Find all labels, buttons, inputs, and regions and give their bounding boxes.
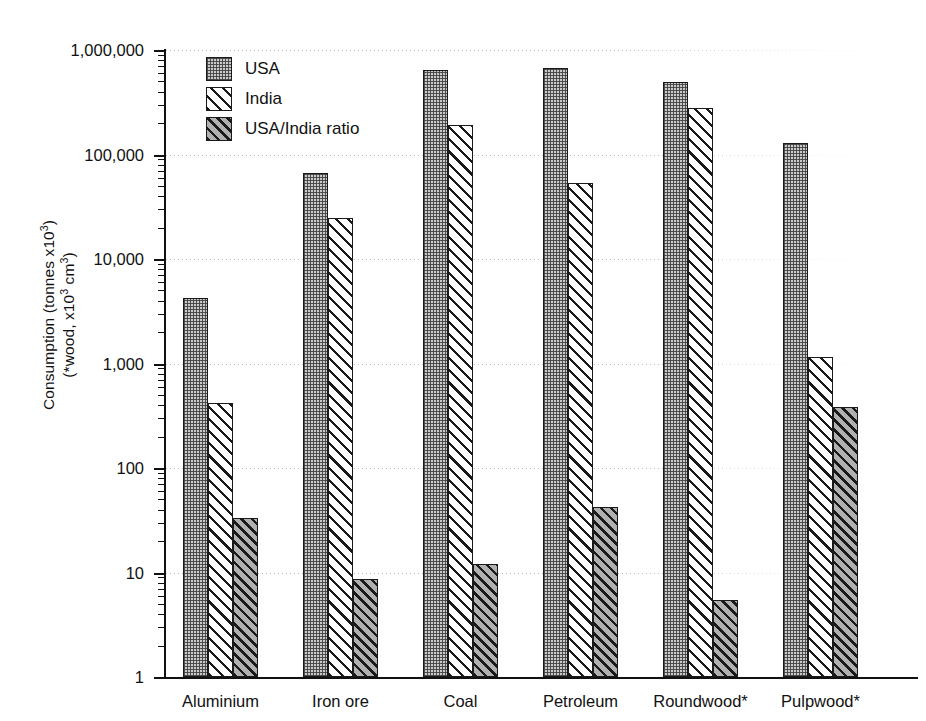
y-tick-major xyxy=(154,677,165,679)
y-tick-minor xyxy=(158,541,165,542)
bar xyxy=(423,70,448,677)
y-tick-major xyxy=(154,50,165,52)
y-tick-minor xyxy=(158,81,165,82)
y-tick-minor xyxy=(158,105,165,106)
bar xyxy=(543,68,568,677)
y-tick-minor xyxy=(158,171,165,172)
bar xyxy=(183,298,208,677)
y-tick-minor xyxy=(158,437,165,438)
y-tick-minor xyxy=(158,314,165,315)
y-tick-minor xyxy=(158,196,165,197)
y-tick-label: 10 xyxy=(18,565,144,581)
y-tick-minor xyxy=(158,60,165,61)
legend-item: India xyxy=(206,84,359,114)
y-tick-minor xyxy=(158,269,165,270)
y-tick-minor xyxy=(158,66,165,67)
bar xyxy=(713,600,738,677)
y-tick-minor xyxy=(158,264,165,265)
y-tick-minor xyxy=(158,478,165,479)
legend-label: USA xyxy=(245,59,280,79)
bar xyxy=(233,518,258,677)
y-tick-minor xyxy=(158,92,165,93)
y-tick-minor xyxy=(158,473,165,474)
bar xyxy=(833,407,858,677)
legend-label: USA/India ratio xyxy=(245,119,359,139)
y-tick-minor xyxy=(158,55,165,56)
y-tick-label: 100 xyxy=(18,460,144,476)
bar xyxy=(303,173,328,677)
y-tick-minor xyxy=(158,523,165,524)
y-tick-minor xyxy=(158,589,165,590)
y-tick-label: 1,000,000 xyxy=(18,42,144,58)
bar xyxy=(808,357,833,677)
x-category-label: Aluminium xyxy=(182,692,259,711)
bar xyxy=(353,579,378,677)
y-tick-minor xyxy=(158,405,165,406)
y-tick-label: 100,000 xyxy=(18,147,144,163)
y-tick-minor xyxy=(158,228,165,229)
legend-swatch xyxy=(206,87,232,111)
y-tick-minor xyxy=(158,290,165,291)
y-tick-minor xyxy=(158,368,165,369)
y-tick-minor xyxy=(158,491,165,492)
y-tick-major xyxy=(154,468,165,470)
bar xyxy=(208,403,233,677)
y-tick-minor xyxy=(158,332,165,333)
x-axis-line xyxy=(154,677,918,679)
y-tick-major xyxy=(154,259,165,261)
x-category-label: Petroleum xyxy=(543,692,618,711)
legend-label: India xyxy=(245,89,282,109)
y-tick-label: 10,000 xyxy=(18,251,144,267)
y-tick-minor xyxy=(158,510,165,511)
y-tick-minor xyxy=(158,159,165,160)
y-tick-minor xyxy=(158,275,165,276)
x-category-label: Roundwood* xyxy=(653,692,748,711)
legend: USAIndiaUSA/India ratio xyxy=(206,54,359,144)
y-tick-minor xyxy=(158,178,165,179)
bar xyxy=(593,507,618,677)
bar xyxy=(688,108,713,677)
y-tick-minor xyxy=(158,499,165,500)
bar xyxy=(568,183,593,677)
y-tick-minor xyxy=(158,484,165,485)
plot-area xyxy=(166,50,918,677)
x-category-label: Iron ore xyxy=(312,692,369,711)
y-tick-label: 1 xyxy=(18,669,144,685)
y-tick-major xyxy=(154,364,165,366)
legend-item: USA xyxy=(206,54,359,84)
y-tick-minor xyxy=(158,604,165,605)
bar xyxy=(783,143,808,677)
legend-swatch xyxy=(206,57,232,81)
y-tick-minor xyxy=(158,418,165,419)
bar xyxy=(663,82,688,677)
y-tick-minor xyxy=(158,186,165,187)
y-tick-major xyxy=(154,155,165,157)
bar-chart: Consumption (tonnes x103) (*wood, x103 c… xyxy=(0,0,926,721)
y-tick-minor xyxy=(158,614,165,615)
bar xyxy=(328,218,353,677)
x-category-label: Pulpwood* xyxy=(781,692,860,711)
y-tick-minor xyxy=(158,577,165,578)
y-tick-minor xyxy=(158,646,165,647)
x-category-label: Coal xyxy=(444,692,478,711)
y-tick-minor xyxy=(158,165,165,166)
bar xyxy=(473,564,498,677)
y-tick-minor xyxy=(158,73,165,74)
y-tick-minor xyxy=(158,374,165,375)
y-tick-label: 1,000 xyxy=(18,356,144,372)
y-tick-minor xyxy=(158,395,165,396)
legend-item: USA/India ratio xyxy=(206,114,359,144)
y-tick-minor xyxy=(158,282,165,283)
y-tick-minor xyxy=(158,387,165,388)
y-tick-major xyxy=(154,573,165,575)
y-tick-minor xyxy=(158,627,165,628)
legend-swatch xyxy=(206,117,232,141)
y-tick-minor xyxy=(158,380,165,381)
y-tick-minor xyxy=(158,301,165,302)
y-tick-minor xyxy=(158,596,165,597)
y-tick-minor xyxy=(158,583,165,584)
y-tick-minor xyxy=(158,123,165,124)
y-tick-minor xyxy=(158,209,165,210)
gridline xyxy=(166,50,896,51)
bar xyxy=(448,125,473,677)
